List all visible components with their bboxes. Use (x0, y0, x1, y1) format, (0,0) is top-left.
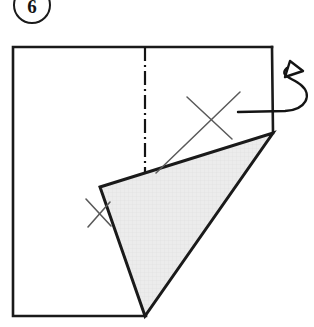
paper-sheet-right-edge (272, 47, 273, 133)
folded-triangle-flap (100, 133, 273, 316)
folding-diagram: 6 (0, 0, 314, 327)
x-mark-stroke-b (187, 97, 232, 139)
flip-arrow-head (285, 61, 303, 77)
diagram-canvas (0, 0, 314, 327)
